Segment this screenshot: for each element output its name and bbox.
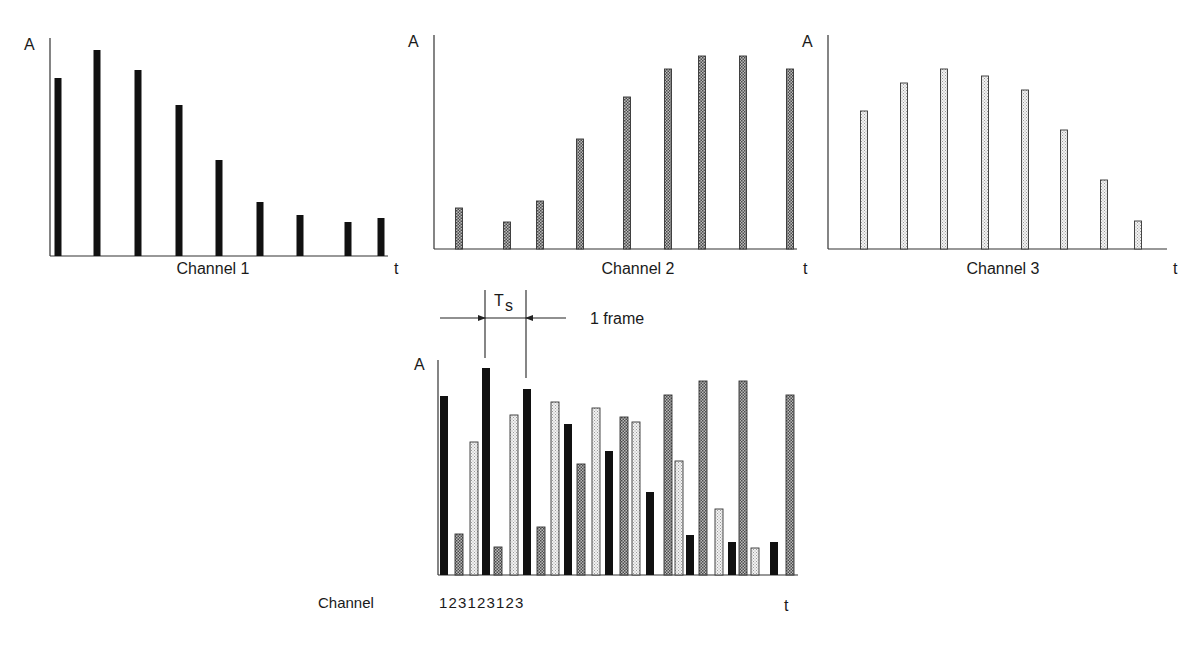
bar-channel-1 bbox=[728, 542, 736, 575]
bar-channel-3 bbox=[941, 69, 948, 249]
bar-channel-2 bbox=[537, 527, 545, 575]
x-axis-label: t bbox=[784, 597, 789, 614]
bar-channel-1 bbox=[176, 105, 183, 256]
bar-channel-1 bbox=[55, 78, 62, 256]
channel-2-chart: AtChannel 2 bbox=[408, 33, 808, 277]
frame-label: 1 frame bbox=[590, 310, 644, 327]
bar-channel-3 bbox=[510, 415, 518, 575]
bar-channel-2 bbox=[787, 69, 794, 249]
bar-channel-2 bbox=[739, 381, 747, 575]
bar-channel-3 bbox=[861, 111, 868, 249]
bar-channel-2 bbox=[740, 56, 747, 249]
bar-channel-2 bbox=[786, 395, 794, 575]
bar-channel-2 bbox=[577, 139, 584, 249]
channel-row-label: Channel bbox=[318, 594, 374, 611]
bar-channel-2 bbox=[620, 417, 628, 575]
bar-channel-1 bbox=[94, 50, 101, 256]
bar-channel-2 bbox=[494, 547, 502, 575]
y-axis-label: A bbox=[24, 36, 35, 53]
y-axis-label: A bbox=[802, 33, 813, 50]
channel-3-chart: AtChannel 3 bbox=[802, 33, 1178, 277]
chart-title: Channel 1 bbox=[177, 260, 250, 277]
bar-channel-1 bbox=[345, 222, 352, 256]
bar-channel-1 bbox=[440, 396, 448, 575]
multiplexed-chart: At bbox=[414, 356, 798, 614]
bar-channel-2 bbox=[504, 222, 511, 249]
bar-channel-2 bbox=[665, 69, 672, 249]
ts-label: Ts bbox=[494, 292, 513, 314]
y-axis-label: A bbox=[408, 33, 419, 50]
chart-title: Channel 3 bbox=[967, 260, 1040, 277]
bar-channel-2 bbox=[699, 381, 707, 575]
y-axis-label: A bbox=[414, 356, 425, 373]
bar-channel-2 bbox=[537, 201, 544, 249]
x-axis-label: t bbox=[803, 260, 808, 277]
x-axis-label: t bbox=[394, 260, 399, 277]
bar-channel-3 bbox=[1101, 180, 1108, 249]
channel-sequence-label: 1 2 3 1 2 3 1 2 3 bbox=[439, 594, 523, 611]
bar-channel-2 bbox=[577, 464, 585, 575]
bar-channel-2 bbox=[455, 534, 463, 575]
bar-channel-1 bbox=[646, 492, 654, 575]
bar-channel-3 bbox=[551, 402, 559, 575]
bar-channel-1 bbox=[297, 215, 304, 256]
bar-channel-3 bbox=[901, 83, 908, 249]
bar-channel-1 bbox=[564, 424, 572, 575]
bar-channel-2 bbox=[699, 56, 706, 249]
x-axis-label: t bbox=[1173, 260, 1178, 277]
bar-channel-1 bbox=[378, 218, 385, 256]
bar-channel-1 bbox=[605, 451, 613, 575]
bar-channel-3 bbox=[470, 442, 478, 575]
channel-1-chart: AtChannel 1 bbox=[24, 36, 399, 277]
frame-annotation: Ts1 frame bbox=[440, 290, 644, 378]
bar-channel-1 bbox=[257, 202, 264, 256]
bar-channel-3 bbox=[982, 76, 989, 249]
bar-channel-1 bbox=[482, 368, 490, 575]
bar-channel-3 bbox=[1135, 221, 1142, 249]
bar-channel-2 bbox=[664, 395, 672, 575]
bar-channel-2 bbox=[624, 97, 631, 249]
bar-channel-3 bbox=[715, 509, 723, 575]
bar-channel-1 bbox=[686, 535, 694, 575]
bar-channel-1 bbox=[770, 542, 778, 575]
chart-title: Channel 2 bbox=[602, 260, 675, 277]
tdm-diagram: AtChannel 1 AtChannel 2 AtChannel 3 At T… bbox=[0, 0, 1200, 646]
bar-channel-1 bbox=[523, 389, 531, 575]
bar-channel-1 bbox=[216, 160, 223, 256]
bar-channel-3 bbox=[1061, 130, 1068, 249]
bar-channel-3 bbox=[592, 408, 600, 575]
bar-channel-3 bbox=[632, 422, 640, 575]
bar-channel-1 bbox=[135, 70, 142, 256]
bar-channel-3 bbox=[751, 548, 759, 575]
bar-channel-2 bbox=[456, 208, 463, 249]
bar-channel-3 bbox=[1022, 90, 1029, 249]
bar-channel-3 bbox=[675, 461, 683, 575]
